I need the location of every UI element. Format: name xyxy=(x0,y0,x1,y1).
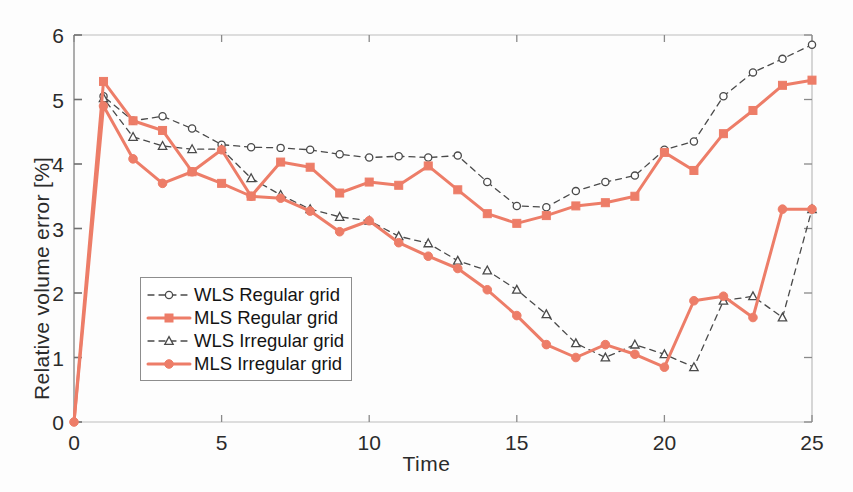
data-point xyxy=(690,296,699,305)
svg-text:0: 0 xyxy=(68,431,80,454)
data-point xyxy=(749,69,756,76)
data-point xyxy=(425,154,432,161)
data-point xyxy=(395,153,402,160)
data-point xyxy=(513,311,522,320)
data-point xyxy=(631,192,639,200)
data-point xyxy=(660,363,669,372)
legend-swatch-open-triangle-icon xyxy=(146,334,192,348)
legend-swatch-filled-circle-icon xyxy=(146,357,192,371)
data-point xyxy=(601,340,610,349)
data-point xyxy=(513,219,521,227)
data-point xyxy=(188,125,195,132)
data-point xyxy=(454,152,461,159)
data-point xyxy=(690,138,697,145)
data-point xyxy=(484,178,491,185)
data-point xyxy=(159,113,166,120)
data-point xyxy=(483,210,491,218)
svg-text:0: 0 xyxy=(52,411,64,434)
data-point xyxy=(454,256,462,264)
data-point xyxy=(513,202,520,209)
svg-text:20: 20 xyxy=(653,431,676,454)
data-point xyxy=(601,199,609,207)
svg-text:4: 4 xyxy=(52,153,64,176)
data-point xyxy=(483,285,492,294)
data-point xyxy=(276,194,285,203)
legend-label: WLS Irregular grid xyxy=(194,330,344,352)
data-point xyxy=(217,146,226,155)
axis-tick-labels: 05101520250123456 xyxy=(52,24,823,454)
x-axis-title: Time xyxy=(0,452,853,476)
svg-text:5: 5 xyxy=(216,431,228,454)
data-point xyxy=(513,285,521,293)
svg-text:25: 25 xyxy=(800,431,823,454)
data-point xyxy=(660,148,668,156)
data-point xyxy=(749,292,757,300)
origin-data-point xyxy=(70,418,79,427)
data-point xyxy=(248,144,255,151)
data-point xyxy=(542,340,551,349)
data-point xyxy=(366,154,373,161)
data-point xyxy=(277,158,285,166)
legend-item-2: MLS Regular grid xyxy=(146,306,344,329)
data-point xyxy=(247,192,256,201)
data-point xyxy=(307,146,314,153)
data-point xyxy=(483,266,491,274)
legend-item-4: MLS Irregular grid xyxy=(146,352,344,375)
data-point xyxy=(365,216,374,225)
svg-text:2: 2 xyxy=(52,282,64,305)
data-point xyxy=(749,106,757,114)
data-point xyxy=(306,163,314,171)
data-point xyxy=(165,291,172,298)
data-point xyxy=(778,313,786,321)
data-point xyxy=(778,205,787,214)
data-point xyxy=(306,207,315,216)
data-point xyxy=(454,186,462,194)
data-point xyxy=(543,204,550,211)
legend-label: MLS Irregular grid xyxy=(194,353,342,375)
data-point xyxy=(779,55,786,62)
data-point xyxy=(631,350,640,359)
data-point xyxy=(365,178,373,186)
svg-text:5: 5 xyxy=(52,89,64,112)
legend-item-1: WLS Regular grid xyxy=(146,283,344,306)
data-point xyxy=(336,189,344,197)
data-point xyxy=(277,144,284,151)
legend-label: WLS Regular grid xyxy=(194,284,340,306)
data-point xyxy=(602,178,609,185)
svg-text:6: 6 xyxy=(52,24,64,47)
data-point xyxy=(631,340,639,348)
data-point xyxy=(808,205,817,214)
legend-swatch-open-circle-icon xyxy=(146,288,192,302)
data-point xyxy=(542,212,550,220)
data-point xyxy=(129,117,137,125)
data-point xyxy=(100,77,108,85)
data-point xyxy=(129,155,138,164)
data-point xyxy=(165,314,173,322)
data-point xyxy=(218,179,226,187)
chart-legend: WLS Regular gridMLS Regular gridWLS Irre… xyxy=(140,277,352,381)
data-point xyxy=(395,181,403,189)
data-point xyxy=(424,162,432,170)
data-point xyxy=(336,151,343,158)
legend-label: MLS Regular grid xyxy=(194,307,338,329)
data-point xyxy=(159,126,167,134)
chart-figure: 05101520250123456 Relative volume error … xyxy=(0,0,853,492)
data-point xyxy=(720,93,727,100)
data-point xyxy=(601,353,609,361)
data-point xyxy=(719,130,727,138)
legend-swatch-filled-square-icon xyxy=(146,311,192,325)
data-point xyxy=(749,313,758,322)
svg-text:10: 10 xyxy=(358,431,381,454)
data-point xyxy=(188,167,197,176)
data-point xyxy=(631,172,638,179)
data-point xyxy=(572,187,579,194)
data-point xyxy=(453,264,462,273)
data-point xyxy=(808,41,815,48)
svg-text:1: 1 xyxy=(52,347,64,370)
data-point xyxy=(394,238,403,247)
data-point xyxy=(690,166,698,174)
legend-item-3: WLS Irregular grid xyxy=(146,329,344,352)
svg-text:3: 3 xyxy=(52,218,64,241)
data-point xyxy=(335,227,344,236)
y-axis-title: Relative volume error [%] xyxy=(30,157,54,400)
